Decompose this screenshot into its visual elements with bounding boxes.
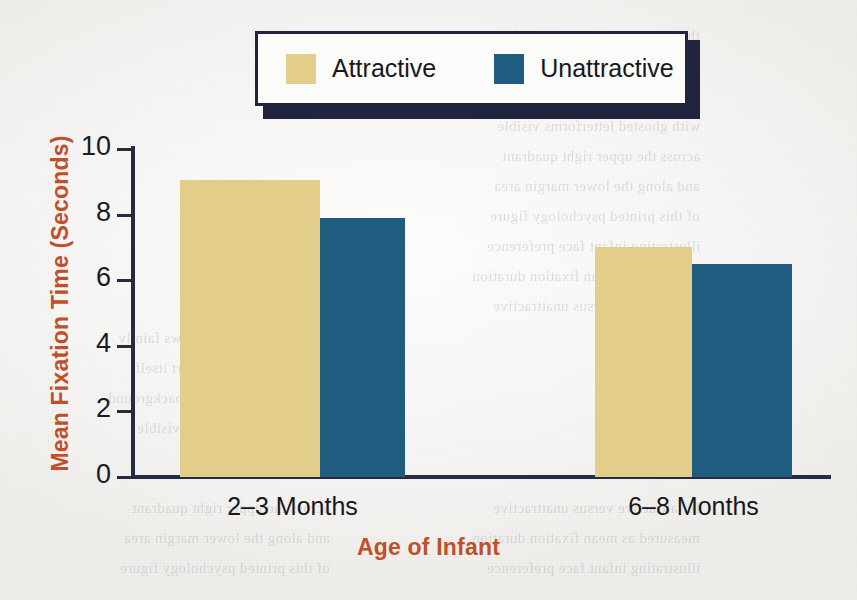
legend-label: Attractive bbox=[332, 54, 436, 83]
legend-swatch-unattractive bbox=[494, 54, 524, 84]
y-axis-title-wrapper: Mean Fixation Time (Seconds) bbox=[0, 290, 260, 317]
legend-label: Unattractive bbox=[540, 54, 673, 83]
legend-entry-attractive: Attractive bbox=[286, 54, 436, 84]
scanned-page: the reverse page text shows faintlyand i… bbox=[0, 0, 857, 600]
bar-unattractive-1 bbox=[320, 218, 405, 477]
bar-attractive-1 bbox=[180, 180, 320, 477]
bar-unattractive-2 bbox=[692, 264, 792, 477]
x-axis-title: Age of Infant bbox=[0, 534, 857, 561]
chart-legend: AttractiveUnattractive bbox=[255, 31, 688, 106]
legend-entry-unattractive: Unattractive bbox=[494, 54, 673, 84]
bar-chart: 1086420 2–3 Months6–8 Months Mean Fixati… bbox=[0, 0, 857, 600]
x-axis-category-label: 6–8 Months bbox=[544, 492, 844, 521]
bar-attractive-2 bbox=[595, 247, 692, 477]
y-axis-title: Mean Fixation Time (Seconds) bbox=[47, 135, 74, 471]
x-axis-category-label: 2–3 Months bbox=[143, 492, 443, 521]
legend-swatch-attractive bbox=[286, 54, 316, 84]
